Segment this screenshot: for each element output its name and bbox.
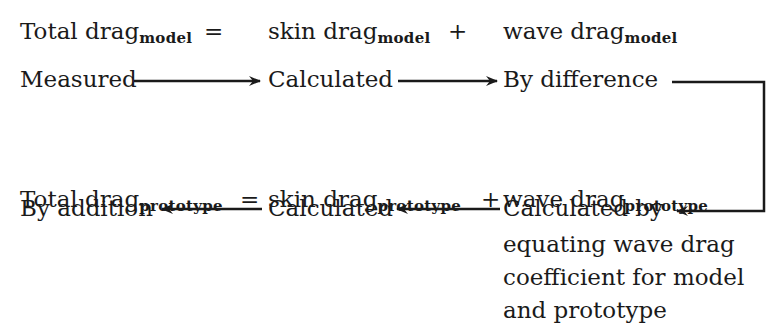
label-calculated-by-line-4: and prototype — [503, 299, 667, 322]
plus-sign-model: + — [448, 20, 467, 43]
total-drag-model-term: Total dragmodel — [20, 20, 192, 46]
label-calculated-by-line-2: equating wave drag — [503, 233, 735, 256]
wave-drag-model-term: wave dragmodel — [503, 20, 678, 46]
label-measured: Measured — [20, 68, 137, 91]
skin-drag-model-term: skin dragmodel — [268, 20, 430, 46]
label-calculated-by-line-3: coefficient for model — [503, 266, 744, 289]
equals-sign-model: = — [204, 20, 223, 43]
label-calculated-model: Calculated — [268, 68, 393, 91]
label-by-addition: By addition — [20, 197, 153, 220]
equals-sign-prototype: = — [240, 188, 259, 211]
label-calculated-prototype: Calculated — [268, 197, 393, 220]
plus-sign-prototype: + — [481, 188, 500, 211]
label-by-difference: By difference — [503, 68, 658, 91]
label-calculated-by-line-1: Calculated by — [503, 197, 663, 220]
